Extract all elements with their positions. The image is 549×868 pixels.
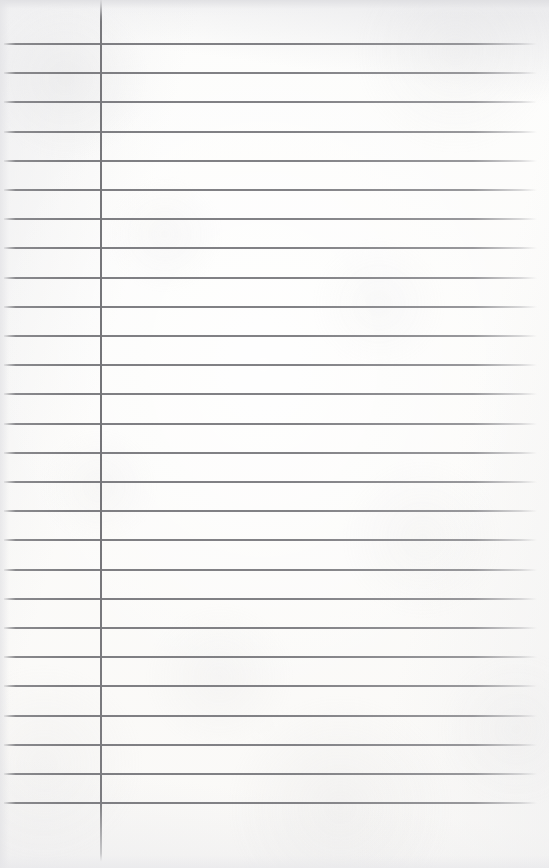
rule-line [4, 218, 537, 220]
rule-line [4, 481, 537, 483]
rule-line [4, 277, 537, 279]
rule-line [4, 335, 537, 337]
rule-line [4, 715, 537, 717]
rule-line [4, 160, 537, 162]
rule-line [4, 364, 537, 366]
left-edge-shadow [0, 0, 9, 868]
bottom-edge-shadow [0, 856, 549, 868]
rule-line [4, 131, 537, 133]
top-edge-shadow [0, 0, 549, 16]
rule-line [4, 423, 537, 425]
vertical-margin-rule [100, 0, 102, 862]
rule-line [4, 306, 537, 308]
rule-line [4, 685, 537, 687]
rule-line [4, 598, 537, 600]
rule-line [4, 189, 537, 191]
rule-line [4, 744, 537, 746]
rule-line [4, 627, 537, 629]
rule-line [4, 656, 537, 658]
rule-line [4, 43, 537, 45]
rule-line [4, 101, 537, 103]
rule-line [4, 510, 537, 512]
rule-line [4, 72, 537, 74]
paper-texture-overlay [0, 0, 549, 868]
rule-line [4, 452, 537, 454]
lined-paper-sheet [0, 0, 549, 868]
rule-line [4, 802, 537, 804]
rule-line [4, 539, 537, 541]
rule-line [4, 569, 537, 571]
rule-line [4, 393, 537, 395]
paper-grain-overlay [0, 0, 549, 868]
rule-line [4, 773, 537, 775]
rule-line [4, 247, 537, 249]
